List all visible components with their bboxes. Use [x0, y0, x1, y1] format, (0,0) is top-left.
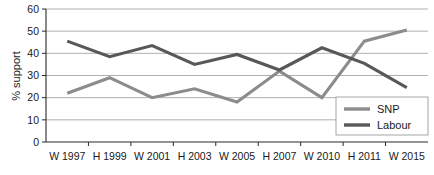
x-tick-label: H 2011 — [348, 150, 381, 162]
x-axis-tickmarks — [88, 142, 385, 146]
x-axis-tick-labels: W 1997H 1999W 2001H 2003W 2005H 2007W 20… — [49, 150, 425, 162]
y-tick-label: 0 — [33, 136, 39, 148]
x-tick-label: W 2015 — [389, 150, 425, 162]
x-tick-label: W 1997 — [49, 150, 85, 162]
legend-label-snp: SNP — [377, 103, 400, 115]
y-tick-label: 10 — [27, 114, 39, 126]
series-line-snp — [67, 30, 407, 102]
chart-canvas: 0102030405060 W 1997H 1999W 2001H 2003W … — [0, 0, 434, 175]
legend-label-labour: Labour — [377, 119, 412, 131]
x-tick-label: W 2010 — [304, 150, 340, 162]
y-tick-label: 60 — [27, 3, 39, 15]
x-tick-label: H 2003 — [178, 150, 212, 162]
y-tick-label: 30 — [27, 69, 39, 81]
x-tick-label: H 1999 — [93, 150, 127, 162]
line-chart: 0102030405060 W 1997H 1999W 2001H 2003W … — [0, 0, 434, 175]
y-tick-label: 50 — [27, 25, 39, 37]
y-axis-tickmarks — [42, 9, 46, 142]
y-tick-label: 40 — [27, 47, 39, 59]
x-tick-label: H 2007 — [263, 150, 297, 162]
y-axis-tick-labels: 0102030405060 — [27, 3, 39, 148]
y-axis-title: % support — [10, 51, 22, 101]
x-tick-label: W 2005 — [219, 150, 255, 162]
y-tick-label: 20 — [27, 91, 39, 103]
x-tick-label: W 2001 — [134, 150, 170, 162]
chart-legend: SNP Labour — [336, 97, 428, 135]
data-series-layer — [67, 30, 407, 102]
